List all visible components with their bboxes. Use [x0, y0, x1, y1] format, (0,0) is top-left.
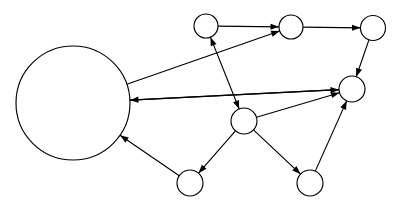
- graph-canvas: [0, 0, 408, 209]
- graph-node-d[interactable]: [361, 16, 386, 41]
- edge-c-to-d: [303, 27, 361, 28]
- edge-e-to-a-arrowhead: [130, 97, 139, 103]
- edge-f-to-e: [256, 93, 339, 118]
- edge-f-to-b-arrowhead: [210, 37, 216, 46]
- graph-node-a[interactable]: [16, 46, 130, 160]
- edge-d-to-e-arrowhead: [356, 68, 362, 77]
- edge-b-to-c: [218, 26, 279, 27]
- graph-node-h[interactable]: [297, 170, 323, 196]
- edge-f-to-b-arrowhead-reverse: [233, 100, 239, 109]
- edge-g-to-a-arrowhead: [120, 135, 129, 142]
- graph-node-b[interactable]: [194, 14, 218, 38]
- graph-node-g[interactable]: [177, 170, 203, 196]
- graph-node-e[interactable]: [339, 76, 365, 102]
- graph-svg-surface: [0, 0, 408, 209]
- edge-f-to-e-arrowhead: [331, 92, 340, 98]
- edge-h-to-e-arrowhead: [340, 101, 346, 110]
- edge-g-to-a: [120, 135, 179, 175]
- graph-node-f[interactable]: [231, 108, 257, 134]
- edge-c-to-d-arrowhead: [352, 25, 361, 31]
- edge-a-to-c-arrowhead: [271, 31, 280, 37]
- edge-f-to-b: [210, 37, 239, 109]
- edge-h-to-e: [315, 101, 346, 171]
- edge-b-to-c-arrowhead: [270, 24, 279, 30]
- edge-layer: [120, 24, 369, 176]
- edge-f-to-h: [253, 130, 300, 174]
- graph-node-c[interactable]: [279, 15, 303, 39]
- edge-a-to-c: [127, 31, 280, 84]
